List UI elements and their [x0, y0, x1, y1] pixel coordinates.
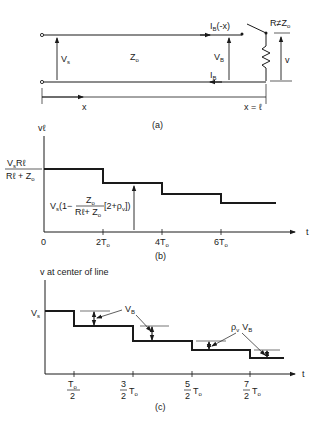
tick-num: 5 — [185, 379, 190, 389]
terminal-bottom — [40, 80, 43, 83]
tick-den: 2 — [121, 391, 126, 401]
x-axis-label-b: t — [306, 227, 309, 237]
tick-label-7-half-to: 7 2 To — [243, 379, 262, 401]
caption-c: (c) — [155, 402, 166, 412]
rho-vb-callout-label: ρvVB — [231, 322, 252, 333]
tick-label-0: 0 — [41, 237, 46, 247]
zo-label: Zo — [130, 52, 140, 63]
rho-leader-2 — [242, 333, 265, 355]
vl-label: v — [285, 55, 290, 65]
tick-whole: To — [129, 386, 139, 397]
x-label: x — [82, 102, 87, 112]
step-fraction-denominator: Rℓ+ Zo — [75, 207, 102, 218]
load-label: R≠Zo — [270, 18, 291, 29]
switch-contact — [241, 33, 244, 36]
tick-label-6to: 6To — [214, 237, 229, 248]
vs-level-label: Vs — [31, 308, 40, 319]
initial-value-numerator: VsRℓ — [7, 158, 27, 169]
rho-leader-1 — [212, 333, 236, 346]
switch-blade — [247, 24, 266, 33]
caption-a: (a) — [152, 120, 163, 130]
tick-num: To — [68, 379, 78, 390]
x-end-label: x = ℓ — [244, 102, 263, 112]
vb-label: VB — [214, 52, 224, 63]
tick-label-2to: 2To — [96, 237, 111, 248]
load-resistor — [262, 33, 270, 81]
center-step-waveform — [45, 311, 284, 358]
tick-den: 2 — [244, 391, 249, 401]
tick-whole: To — [252, 386, 262, 397]
panel-b-chart: vℓ t VsRℓ Rℓ + Zo Vs(1− Zo Rℓ+ Zo [2+ρv]… — [5, 123, 309, 261]
tick-label-3-half-to: 3 2 To — [120, 379, 139, 401]
terminal-top — [40, 33, 43, 36]
initial-value-denominator: Rℓ + Zo — [6, 171, 35, 182]
figure: Vs Zo VB IB(-x) IB R≠Zo v x x = ℓ (a) vℓ… — [0, 0, 320, 427]
tick-den: 2 — [185, 391, 190, 401]
y-axis-label-b: vℓ — [38, 123, 47, 133]
tick-label-4to: 4To — [155, 237, 170, 248]
tick-den: 2 — [70, 391, 75, 401]
ib-forward-label: IB(-x) — [210, 21, 230, 32]
caption-b: (b) — [155, 251, 166, 261]
ib-return-label: IB — [210, 70, 217, 81]
panel-a-circuit: Vs Zo VB IB(-x) IB R≠Zo v x x = ℓ (a) — [40, 18, 292, 130]
tick-label-half-to: To 2 — [67, 379, 80, 401]
tick-label-5-half-to: 5 2 To — [184, 379, 203, 401]
tick-num: 3 — [121, 379, 126, 389]
x-axis-label-c: t — [302, 369, 305, 379]
vb-callout-label: VB — [125, 304, 135, 315]
tick-whole: To — [193, 386, 203, 397]
step-annotation-suffix: [2+ρv]) — [104, 201, 130, 212]
y-axis-label-c: v at center of line — [40, 267, 109, 277]
step-fraction-numerator: Zo — [86, 195, 96, 206]
vs-label: Vs — [61, 54, 70, 65]
tick-num: 7 — [244, 379, 249, 389]
vb-leader-2 — [136, 315, 151, 331]
step-annotation-prefix: Vs(1− — [50, 201, 72, 212]
vl-step-waveform — [44, 169, 276, 203]
panel-c-chart: v at center of line t Vs VB ρvVB — [31, 267, 305, 412]
